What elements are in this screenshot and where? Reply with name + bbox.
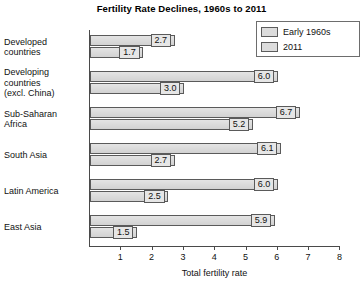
bar-row: 1.5 (90, 227, 340, 238)
x-axis-tick-label: 6 (267, 252, 287, 262)
x-axis-tick-label: 5 (236, 252, 256, 262)
x-axis-tick-label: 3 (173, 252, 193, 262)
category-label: East Asia (4, 222, 86, 233)
bar-row: 5.2 (90, 119, 340, 130)
bar-group: 6.75.2 (90, 107, 340, 131)
category-label: Sub-SaharanAfrica (4, 109, 86, 130)
bar-row: 6.7 (90, 107, 340, 118)
bar-group: 6.03.0 (90, 71, 340, 95)
bar-value-label: 6.0 (254, 70, 275, 83)
x-axis-tick-label: 8 (329, 252, 349, 262)
plot-area: 2.71.76.03.06.75.26.12.76.02.55.91.5 (89, 30, 340, 246)
bar-row: 5.9 (90, 215, 340, 226)
bar (90, 179, 278, 190)
category-label: Latin America (4, 186, 86, 197)
chart-title: Fertility Rate Declines, 1960s to 2011 (0, 3, 363, 14)
category-label-line: Sub-Saharan (4, 109, 86, 120)
bar-group: 6.02.5 (90, 179, 340, 203)
bar-row: 6.1 (90, 143, 340, 154)
category-label-line: South Asia (4, 150, 86, 161)
x-axis-tick (120, 246, 121, 250)
bar (90, 215, 275, 226)
bar (90, 143, 281, 154)
fertility-rate-bar-chart: Fertility Rate Declines, 1960s to 2011 E… (0, 0, 363, 291)
bar-row: 3.0 (90, 83, 340, 94)
category-label-line: Latin America (4, 186, 86, 197)
bar-value-label: 6.7 (276, 106, 297, 119)
x-axis-tick-label: 4 (204, 252, 224, 262)
bar-value-label: 2.7 (151, 34, 172, 47)
bar-value-label: 1.5 (113, 226, 134, 239)
bar-value-label: 2.5 (144, 190, 165, 203)
bar (90, 107, 300, 118)
x-axis-tick (277, 246, 278, 250)
bar-group: 5.91.5 (90, 215, 340, 239)
x-axis-tick-label: 2 (142, 252, 162, 262)
bar-value-label: 5.9 (251, 214, 272, 227)
category-label-line: countries (4, 47, 86, 58)
x-axis-tick (246, 246, 247, 250)
bar-row: 2.7 (90, 155, 340, 166)
category-label-line: (excl. China) (4, 88, 86, 99)
bar (90, 71, 278, 82)
category-label-line: Developed (4, 37, 86, 48)
category-label: Developedcountries (4, 37, 86, 58)
category-label: South Asia (4, 150, 86, 161)
bar-group: 6.12.7 (90, 143, 340, 167)
bar-value-label: 5.2 (229, 118, 250, 131)
bar-value-label: 1.7 (119, 46, 140, 59)
x-axis-tick-label: 7 (298, 252, 318, 262)
x-axis-tick (339, 246, 340, 250)
category-label-line: East Asia (4, 222, 86, 233)
bar-value-label: 3.0 (160, 82, 181, 95)
bar-row: 2.7 (90, 35, 340, 46)
x-axis-tick (308, 246, 309, 250)
bar-row: 6.0 (90, 71, 340, 82)
category-label-line: countries (4, 78, 86, 89)
x-axis-tick (152, 246, 153, 250)
bar-value-label: 6.1 (257, 142, 278, 155)
category-label-line: Developing (4, 67, 86, 78)
bar-value-label: 6.0 (254, 178, 275, 191)
y-axis-line (89, 30, 90, 246)
bar-value-label: 2.7 (151, 154, 172, 167)
bar-row: 6.0 (90, 179, 340, 190)
bar-group: 2.71.7 (90, 35, 340, 59)
bar-row: 1.7 (90, 47, 340, 58)
x-axis-tick-label: 1 (110, 252, 130, 262)
x-axis-title: Total fertility rate (89, 268, 340, 278)
x-axis-tick (183, 246, 184, 250)
category-label: Developingcountries(excl. China) (4, 67, 86, 99)
bar-row: 2.5 (90, 191, 340, 202)
category-label-line: Africa (4, 119, 86, 130)
x-axis-tick (214, 246, 215, 250)
